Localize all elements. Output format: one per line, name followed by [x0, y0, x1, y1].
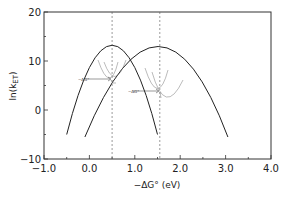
plot-frame — [44, 12, 271, 159]
y-tick-0: 0 — [35, 105, 41, 116]
x-tick-neg1: −1.0 — [32, 163, 56, 174]
inset-right — [133, 68, 183, 98]
y-tick-20: 20 — [28, 7, 41, 18]
annotation-left: −ΔG° — [78, 77, 89, 82]
marcus-plot: 20 10 0 −10 −1.0 0.0 1.0 2.0 3.0 4.0 −ΔG… — [0, 0, 285, 197]
annotation-right: −ΔG° — [128, 89, 139, 94]
series-right-parabola — [85, 47, 228, 138]
x-tick-3: 3.0 — [218, 163, 234, 174]
x-axis — [44, 155, 271, 159]
y-tick-10: 10 — [28, 56, 41, 67]
x-tick-4: 4.0 — [263, 163, 279, 174]
x-tick-1: 1.0 — [127, 163, 143, 174]
x-axis-label: −ΔG° (eV) — [134, 180, 181, 190]
y-axis — [44, 12, 48, 159]
x-tick-2: 2.0 — [172, 163, 188, 174]
x-tick-0: 0.0 — [81, 163, 97, 174]
y-axis-label: ln(kET) — [8, 71, 20, 100]
